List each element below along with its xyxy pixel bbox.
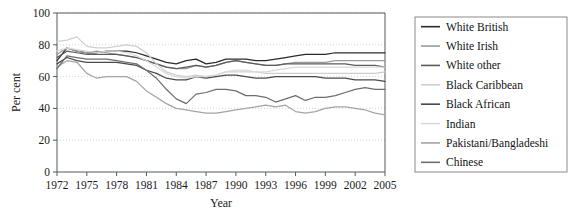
x-tick-label-1981: 1981 xyxy=(135,179,158,191)
series-line-chinese xyxy=(57,56,385,104)
y-axis-title: Per cent xyxy=(9,72,23,112)
series-line-white-other xyxy=(57,51,385,68)
legend-item-label: White other xyxy=(446,59,501,71)
plot-frame xyxy=(57,13,385,172)
y-tick-label-40: 40 xyxy=(39,102,51,114)
legend-item-label: White Irish xyxy=(446,40,498,52)
x-tick-label-1972: 1972 xyxy=(46,179,69,191)
legend-item-label: Black Caribbean xyxy=(446,79,523,91)
y-tick-label-100: 100 xyxy=(33,7,51,19)
series-line-white-british xyxy=(57,48,385,64)
line-chart: 0204060801001972197519781981198419871990… xyxy=(0,0,582,211)
x-tick-label-1984: 1984 xyxy=(165,179,188,191)
x-tick-label-1978: 1978 xyxy=(105,179,128,191)
y-tick-label-80: 80 xyxy=(39,39,51,51)
x-axis-title: Year xyxy=(210,196,232,210)
x-tick-label-1987: 1987 xyxy=(195,179,218,191)
y-tick-label-0: 0 xyxy=(44,166,50,178)
legend-item-label: Chinese xyxy=(446,156,483,168)
series-line-pakistani-bangladeshi xyxy=(57,61,385,115)
x-tick-label-1999: 1999 xyxy=(314,179,337,191)
series-line-black-caribbean xyxy=(57,37,385,77)
x-tick-label-1996: 1996 xyxy=(284,179,307,191)
y-tick-label-20: 20 xyxy=(39,134,51,146)
legend-item-label: White British xyxy=(446,21,509,33)
chart-figure: 0204060801001972197519781981198419871990… xyxy=(0,0,582,211)
x-tick-label-2002: 2002 xyxy=(344,179,367,191)
x-tick-label-2005: 2005 xyxy=(374,179,397,191)
y-tick-label-60: 60 xyxy=(39,71,51,83)
x-tick-label-1975: 1975 xyxy=(75,179,98,191)
legend-item-label: Pakistani/Bangladeshi xyxy=(446,137,548,150)
x-tick-label-1993: 1993 xyxy=(254,179,277,191)
x-tick-label-1990: 1990 xyxy=(224,179,247,191)
legend-item-label: Black African xyxy=(446,98,510,110)
legend-item-label: Indian xyxy=(446,118,476,130)
